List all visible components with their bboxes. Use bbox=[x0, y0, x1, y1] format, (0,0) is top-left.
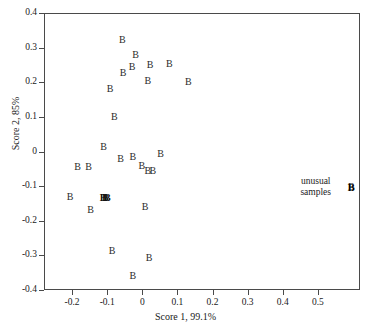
annotation-line-1: unusual bbox=[291, 176, 340, 187]
data-point: B bbox=[87, 205, 94, 215]
data-points-layer: BBBBBBBBBBBBBBBBBBBBBBBBBBBBB bbox=[44, 13, 360, 290]
x-tick-label: 0.2 bbox=[207, 298, 219, 308]
y-axis-tick bbox=[39, 48, 44, 49]
data-point: B bbox=[147, 60, 154, 70]
annotation-line-2: samples bbox=[291, 187, 340, 198]
data-point: B bbox=[85, 162, 92, 172]
x-tick-label: 0.3 bbox=[242, 298, 254, 308]
data-point: B bbox=[74, 162, 81, 172]
x-axis-tick bbox=[72, 290, 73, 295]
data-point: B bbox=[157, 149, 164, 159]
x-tick-label: -0.2 bbox=[65, 298, 80, 308]
x-tick-label: -0.1 bbox=[100, 298, 115, 308]
y-tick-label: -0.4 bbox=[22, 285, 37, 295]
x-axis-tick bbox=[142, 290, 143, 295]
y-axis-tick bbox=[39, 117, 44, 118]
data-point: B bbox=[142, 202, 149, 212]
x-axis-tick bbox=[318, 290, 319, 295]
y-axis-tick bbox=[39, 255, 44, 256]
data-point: B bbox=[145, 76, 152, 86]
y-tick-label: 0.3 bbox=[25, 43, 37, 53]
data-point: B bbox=[109, 246, 116, 256]
y-axis-tick bbox=[39, 290, 44, 291]
y-tick-label: 0.2 bbox=[25, 78, 37, 88]
y-axis-tick bbox=[39, 82, 44, 83]
x-axis-tick bbox=[177, 290, 178, 295]
x-axis-tick bbox=[248, 290, 249, 295]
data-point: B bbox=[120, 68, 127, 78]
data-point: B bbox=[150, 166, 157, 176]
y-tick-label: 0.4 bbox=[25, 8, 37, 18]
data-point: B bbox=[119, 35, 126, 45]
x-tick-label: 0.4 bbox=[277, 298, 289, 308]
unusual-sample-point: B bbox=[348, 182, 355, 193]
x-tick-label: 0 bbox=[140, 298, 145, 308]
x-tick-label: 0.1 bbox=[171, 298, 183, 308]
y-axis-tick bbox=[39, 221, 44, 222]
y-tick-label: -0.2 bbox=[22, 216, 37, 226]
x-axis-tick bbox=[107, 290, 108, 295]
y-axis-tick bbox=[39, 13, 44, 14]
scatter-plot-figure: BBBBBBBBBBBBBBBBBBBBBBBBBBBBB -0.4-0.3-0… bbox=[0, 0, 371, 331]
x-axis-title: Score 1, 99.1% bbox=[0, 311, 371, 322]
x-axis-tick bbox=[213, 290, 214, 295]
x-axis-tick bbox=[283, 290, 284, 295]
data-point: B bbox=[166, 59, 173, 69]
data-point: B bbox=[129, 152, 136, 162]
y-axis-tick bbox=[39, 186, 44, 187]
data-point: B bbox=[107, 84, 114, 94]
y-tick-label: 0 bbox=[32, 147, 37, 157]
unusual-samples-annotation: unusual samples bbox=[291, 176, 340, 197]
x-tick-label: 0.5 bbox=[312, 298, 324, 308]
data-point: B bbox=[146, 253, 153, 263]
data-point: B bbox=[111, 112, 118, 122]
y-tick-label: -0.1 bbox=[22, 181, 37, 191]
data-point: B bbox=[100, 142, 107, 152]
data-point: BBB bbox=[100, 193, 107, 203]
data-point: B bbox=[132, 50, 139, 60]
data-point: B bbox=[185, 77, 192, 87]
data-point: B bbox=[67, 192, 74, 202]
y-axis-tick bbox=[39, 152, 44, 153]
y-axis-title: Score 2, 85% bbox=[10, 64, 21, 184]
y-tick-label: 0.1 bbox=[25, 112, 37, 122]
data-point: B bbox=[117, 154, 124, 164]
y-tick-label: -0.3 bbox=[22, 251, 37, 261]
data-point: B bbox=[129, 62, 136, 72]
data-point: B bbox=[129, 271, 136, 281]
